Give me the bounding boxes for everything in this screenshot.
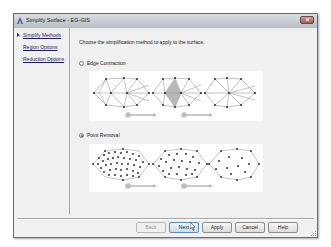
- point-removal-illustration: [89, 144, 263, 192]
- apply-button[interactable]: Apply: [202, 222, 232, 233]
- edge-contraction-diagram-icon: [89, 71, 263, 121]
- wizard-nav: Simplify Methods Region Options Reductio…: [14, 28, 70, 214]
- app-icon: [17, 17, 23, 24]
- edge-contraction-illustration: [89, 71, 263, 121]
- nav-item-reduction-options[interactable]: Reduction Options: [23, 56, 64, 62]
- option-point-removal[interactable]: Point Removal: [79, 132, 120, 138]
- nav-item-region-options[interactable]: Region Options: [23, 44, 57, 50]
- edge-contraction-label: Edge Contraction: [87, 60, 126, 66]
- point-removal-diagram-icon: [89, 144, 263, 192]
- option-edge-contraction[interactable]: Edge Contraction: [79, 60, 126, 66]
- point-removal-label: Point Removal: [87, 132, 120, 138]
- dialog-body: Simplify Methods Region Options Reductio…: [14, 28, 317, 237]
- nav-item-simplify-methods[interactable]: Simplify Methods: [23, 32, 61, 38]
- edge-contraction-radio[interactable]: [79, 61, 84, 66]
- resize-grip-icon[interactable]: [311, 231, 316, 236]
- window-title: Simplify Surface - EG-GIS: [26, 17, 90, 23]
- point-removal-radio[interactable]: [79, 133, 84, 138]
- main-content: Choose the simplification method to appl…: [69, 28, 317, 214]
- simplify-surface-dialog: Simplify Surface - EG-GIS ✕ Simplify Met…: [13, 13, 318, 238]
- help-button[interactable]: Help: [268, 222, 298, 233]
- close-button[interactable]: ✕: [300, 16, 314, 24]
- current-step-arrow-icon: [17, 33, 20, 37]
- back-button[interactable]: Back: [136, 222, 166, 233]
- mouse-pointer-icon: [190, 222, 196, 231]
- cancel-button[interactable]: Cancel: [235, 222, 265, 233]
- close-icon: ✕: [301, 16, 313, 24]
- instruction-text: Choose the simplification method to appl…: [79, 39, 205, 45]
- title-bar[interactable]: Simplify Surface - EG-GIS ✕: [14, 14, 317, 29]
- button-bar-divider: [17, 218, 314, 220]
